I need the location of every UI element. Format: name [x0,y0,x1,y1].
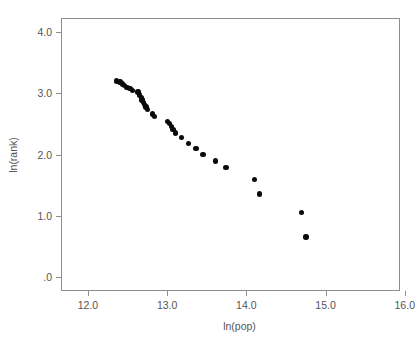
x-axis-tick-mark [405,291,406,296]
data-point [299,210,304,215]
data-point [186,141,191,146]
data-point [223,165,228,170]
x-axis-tick-label: 12.0 [58,300,118,311]
x-axis-tick-label: 14.0 [216,300,276,311]
data-point [303,234,308,239]
data-point [200,152,205,157]
data-points-layer [62,19,399,290]
x-axis-tick-label: 13.0 [137,300,197,311]
x-axis-title: ln(pop) [0,320,418,332]
x-axis-tick-label: 15.0 [296,300,356,311]
data-point [179,135,184,140]
data-point [257,191,262,196]
x-axis-tick-mark [167,291,168,296]
data-point [173,130,178,135]
data-point [213,158,218,163]
y-axis-title: ln(rank) [4,0,22,309]
x-axis-tick-mark [88,291,89,296]
x-axis-tick-label: 16.0 [375,300,418,311]
y-axis-title-text: ln(rank) [7,137,19,173]
scatter-plot-figure: 4.03.02.01.0.0 12.013.014.015.016.0 ln(p… [0,0,418,342]
data-point [252,177,257,182]
data-point [152,114,157,119]
data-point [193,146,198,151]
x-axis-tick-mark [246,291,247,296]
plot-area [61,18,400,291]
x-axis-tick-mark [326,291,327,296]
